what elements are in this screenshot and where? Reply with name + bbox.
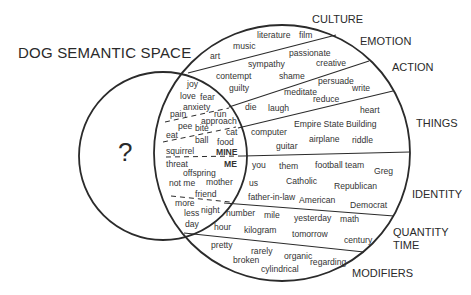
word-label: cylindrical xyxy=(261,264,299,274)
word-label: creative xyxy=(316,58,346,68)
word-label: film xyxy=(299,30,312,40)
word-label: pretty xyxy=(211,240,233,250)
shared-word-label: ball xyxy=(195,135,208,145)
unknown-question-mark: ? xyxy=(118,137,132,167)
shared-word-label: not me xyxy=(169,178,195,188)
word-label: Greg xyxy=(374,166,393,176)
word-label: contempt xyxy=(216,71,252,81)
word-label: you xyxy=(252,160,266,170)
dog-semantic-space-diagram: DOG SEMANTIC SPACE ? CULTUREEMOTIONACTIO… xyxy=(0,0,471,295)
word-label: art xyxy=(210,51,221,61)
shared-word-label: ME xyxy=(224,159,237,169)
divider-things-identity xyxy=(243,152,410,156)
category-label: CULTURE xyxy=(312,13,363,25)
word-label: literature xyxy=(257,30,291,40)
shared-word-label: night xyxy=(201,205,220,215)
human-words: literaturefilmmusicartpassionatesympathy… xyxy=(210,30,393,274)
shared-word-label: pee xyxy=(178,121,193,131)
word-label: yesterday xyxy=(294,213,332,223)
word-label: century xyxy=(344,235,373,245)
category-label: THINGS xyxy=(416,117,458,129)
shared-word-label: cat xyxy=(226,127,238,137)
shared-word-label: more xyxy=(175,198,195,208)
word-label: number xyxy=(226,208,255,218)
shared-word-label: friend xyxy=(195,189,217,199)
word-label: shame xyxy=(279,71,305,81)
word-label: guilty xyxy=(229,83,250,93)
word-label: football team xyxy=(315,160,364,170)
word-label: computer xyxy=(251,127,287,137)
word-label: kilogram xyxy=(244,225,276,235)
word-label: tomorrow xyxy=(292,229,329,239)
shared-word-label: MINE xyxy=(216,147,238,157)
category-labels: CULTUREEMOTIONACTIONTHINGSIDENTITYQUANTI… xyxy=(312,13,463,279)
word-label: Empire State Building xyxy=(294,119,377,129)
shared-word-label: food xyxy=(217,137,234,147)
word-label: laugh xyxy=(268,103,289,113)
word-label: die xyxy=(245,102,257,112)
shared-word-label: pain xyxy=(170,109,186,119)
category-label: IDENTITY xyxy=(412,188,463,200)
venn-diagram: ? CULTUREEMOTIONACTIONTHINGSIDENTITYQUAN… xyxy=(0,0,471,295)
word-label: American xyxy=(299,195,336,205)
word-label: sympathy xyxy=(248,59,285,69)
word-label: write xyxy=(351,83,370,93)
shared-word-label: day xyxy=(185,219,200,229)
shared-word-label: bite xyxy=(195,123,209,133)
word-label: airplane xyxy=(309,134,340,144)
word-label: father-in-law xyxy=(248,192,296,202)
word-label: guitar xyxy=(276,141,298,151)
word-label: music xyxy=(233,41,256,51)
category-label: QUANTITY xyxy=(393,226,449,238)
word-label: them xyxy=(279,161,298,171)
shared-word-label: fear xyxy=(200,92,215,102)
shared-word-label: mother xyxy=(206,177,233,187)
word-label: Republican xyxy=(334,181,377,191)
word-label: organic xyxy=(284,251,313,261)
shared-word-label: joy xyxy=(186,79,199,89)
word-label: reduce xyxy=(313,94,339,104)
word-label: riddle xyxy=(352,135,373,145)
word-label: Catholic xyxy=(286,176,318,186)
word-label: regarding xyxy=(310,257,347,267)
word-label: mile xyxy=(264,210,280,220)
shared-word-label: squirrel xyxy=(166,146,194,156)
category-label: ACTION xyxy=(392,61,434,73)
shared-word-label: anxiety xyxy=(183,102,211,112)
word-label: heart xyxy=(360,105,380,115)
word-label: passionate xyxy=(289,48,331,58)
shared-word-label: less xyxy=(184,208,199,218)
word-label: persuade xyxy=(318,76,354,86)
word-label: math xyxy=(340,214,359,224)
shared-word-label: eat xyxy=(166,130,179,140)
word-label: Democrat xyxy=(350,200,388,210)
category-label: EMOTION xyxy=(360,35,411,47)
shared-word-label: love xyxy=(180,91,196,101)
word-label: hour xyxy=(214,222,231,232)
category-label: MODIFIERS xyxy=(352,267,413,279)
category-label: TIME xyxy=(393,239,419,251)
word-label: broken xyxy=(233,255,259,265)
word-label: us xyxy=(249,178,258,188)
